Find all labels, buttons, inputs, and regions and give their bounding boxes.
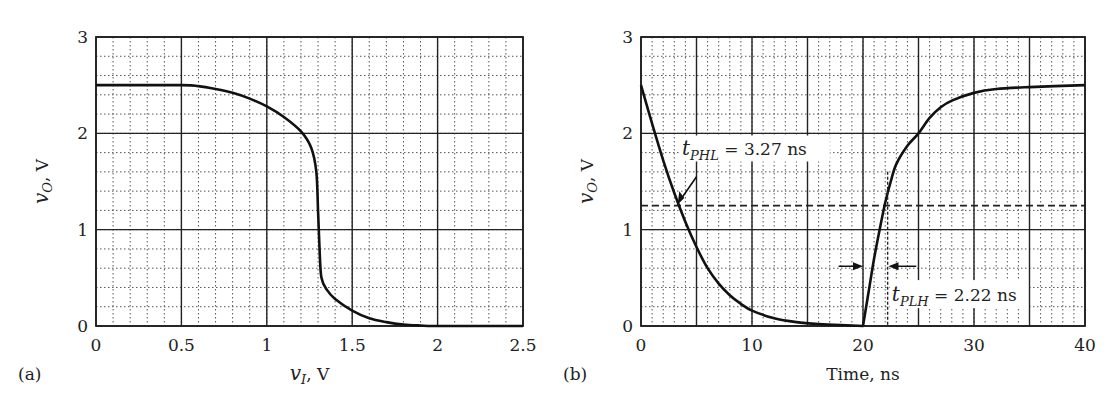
arrow-head-icon (853, 262, 863, 270)
x-axis-label: vI, V (290, 361, 330, 387)
y-tick-label: 0 (77, 316, 88, 336)
panel-label: (a) (18, 364, 41, 384)
arrow-head-icon (678, 191, 685, 204)
y-tick-label: 2 (77, 123, 88, 143)
x-tick-label: 20 (852, 335, 874, 355)
figure: 00.511.522.50123vO, VvI, V(a) 0102030400… (0, 0, 1111, 410)
minor-grid (96, 37, 523, 326)
x-tick-label: 0 (91, 335, 102, 355)
y-tick-label: 3 (77, 27, 88, 47)
chart-panel-a: 00.511.522.50123vO, VvI, V(a) (18, 27, 537, 387)
arrow-head-icon (889, 262, 899, 270)
y-tick-label: 1 (622, 220, 633, 240)
x-tick-label: 2 (432, 335, 443, 355)
x-tick-label: 1.5 (339, 335, 366, 355)
y-tick-label: 0 (622, 316, 633, 336)
major-grid (96, 37, 523, 326)
x-axis-label: Time, ns (826, 364, 899, 384)
y-axis-label: vO, V (29, 158, 55, 204)
y-tick-label: 1 (77, 220, 88, 240)
data-curve (96, 85, 523, 326)
y-tick-label: 3 (622, 27, 633, 47)
x-tick-label: 0.5 (168, 335, 195, 355)
x-tick-label: 2.5 (509, 335, 536, 355)
x-tick-label: 10 (741, 335, 763, 355)
x-tick-label: 0 (636, 335, 647, 355)
x-tick-label: 30 (963, 335, 985, 355)
chart-panel-b: 0102030400123vO, VTime, ns(b)tPHL = 3.27… (563, 27, 1096, 384)
plot-frame (96, 37, 523, 326)
y-axis-label: vO, V (574, 158, 600, 204)
x-tick-label: 40 (1074, 335, 1096, 355)
x-tick-label: 1 (261, 335, 272, 355)
y-tick-label: 2 (622, 123, 633, 143)
panel-label: (b) (563, 364, 587, 384)
